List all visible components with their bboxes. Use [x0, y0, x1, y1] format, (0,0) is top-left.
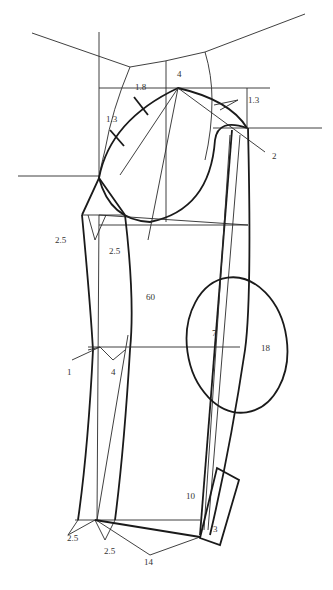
label-elbow-left: 1 — [67, 367, 72, 377]
label-front-offset: 1.8 — [135, 82, 147, 92]
label-sleeve-length: 60 — [146, 292, 156, 302]
label-cuff-length: 10 — [186, 491, 196, 501]
bodice-reference-lines — [18, 14, 322, 222]
sleeve-cap — [99, 88, 265, 240]
label-hem-left: 2.5 — [67, 533, 79, 543]
label-elbow-dart: 4 — [111, 367, 116, 377]
label-elbow-offset: 7 — [212, 328, 217, 338]
label-underarm-left: 2.5 — [55, 235, 67, 245]
sleeve-pattern-diagram: 4 1.8 1.3 1.3 2 2.5 2.5 60 7 18 1 4 10 3… — [0, 0, 333, 590]
label-cuff-width: 3 — [213, 524, 218, 534]
sleeve-body — [68, 128, 249, 555]
label-elbow-circle: 18 — [261, 343, 271, 353]
label-cap-height: 4 — [177, 69, 182, 79]
label-front-curve: 1.3 — [106, 114, 118, 124]
label-hem-dart: 2.5 — [104, 546, 116, 556]
label-hem-width: 14 — [144, 557, 154, 567]
label-underarm-dart: 2.5 — [109, 246, 121, 256]
label-back-offset: 1.3 — [248, 95, 260, 105]
label-back-extension: 2 — [272, 151, 277, 161]
